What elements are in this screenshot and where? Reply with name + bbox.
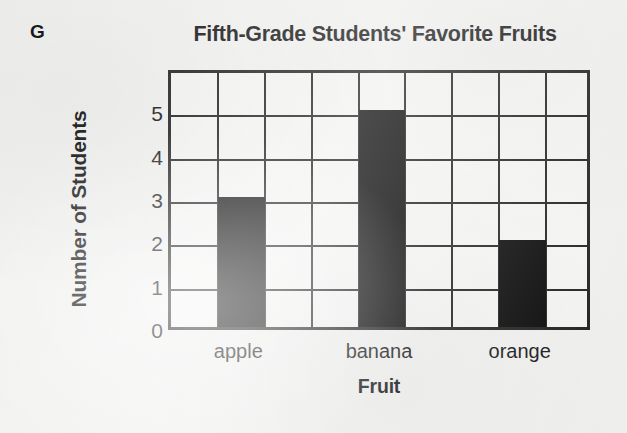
chart-title: Fifth-Grade Students' Favorite Fruits — [140, 23, 610, 47]
plot-area — [168, 70, 590, 330]
bar-orange — [499, 240, 546, 327]
y-axis-tick-labels: 012345 — [133, 70, 163, 330]
y-tick-label-5: 5 — [133, 103, 163, 124]
y-tick-label-4: 4 — [133, 146, 163, 167]
y-tick-label-2: 2 — [133, 233, 163, 254]
y-axis-title: Number of Students — [67, 79, 91, 339]
bar-banana — [359, 110, 406, 327]
x-axis-tick-labels: applebananaorange — [168, 340, 590, 368]
bar-apple — [218, 197, 265, 327]
x-axis-title: Fruit — [168, 375, 590, 398]
bar-series — [171, 73, 587, 327]
x-tick-label-banana: banana — [346, 340, 413, 362]
y-tick-label-0: 0 — [133, 320, 163, 341]
x-tick-label-apple: apple — [214, 340, 263, 362]
y-tick-label-3: 3 — [133, 190, 163, 211]
y-tick-label-1: 1 — [133, 276, 163, 297]
x-tick-label-orange: orange — [489, 340, 551, 362]
figure-label: G — [30, 22, 45, 41]
